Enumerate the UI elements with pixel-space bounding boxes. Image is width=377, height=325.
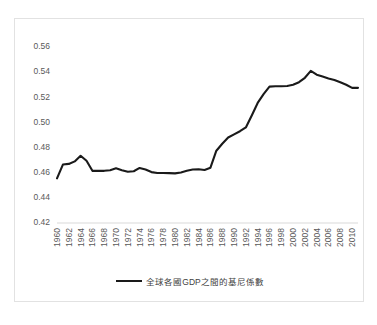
x-axis-tick-label: 2006 xyxy=(323,228,333,247)
x-axis-tick-label: 1968 xyxy=(99,228,109,247)
y-axis-tick-label: 0.50 xyxy=(33,117,50,127)
y-axis-tick-label: 0.42 xyxy=(33,217,50,227)
line-chart-svg: 0.420.440.460.480.500.520.540.5619601962… xyxy=(15,19,365,303)
x-axis-tick-label: 1970 xyxy=(111,228,121,247)
x-axis-tick-label: 1982 xyxy=(182,228,192,247)
y-axis-tick-label: 0.56 xyxy=(33,41,50,51)
y-axis-tick-label: 0.52 xyxy=(33,92,50,102)
y-axis-tick-label: 0.44 xyxy=(33,192,50,202)
data-series-line xyxy=(57,71,358,178)
x-axis-tick-label: 1972 xyxy=(123,228,133,247)
x-axis-tick-label: 1984 xyxy=(194,228,204,247)
x-axis-tick-label: 1992 xyxy=(241,228,251,247)
x-axis-tick-label: 1996 xyxy=(264,228,274,247)
plot-area: 0.420.440.460.480.500.520.540.5619601962… xyxy=(15,19,365,303)
y-axis-tick-label: 0.46 xyxy=(33,167,50,177)
x-axis-tick-label: 1986 xyxy=(205,228,215,247)
legend-line-swatch-icon xyxy=(116,280,142,282)
x-axis-tick-label: 1994 xyxy=(253,228,263,247)
chart-container: 0.420.440.460.480.500.520.540.5619601962… xyxy=(14,18,364,302)
x-axis-tick-label: 1966 xyxy=(87,228,97,247)
x-axis-tick-label: 1998 xyxy=(276,228,286,247)
x-axis-tick-label: 1964 xyxy=(76,228,86,247)
x-axis-tick-label: 2000 xyxy=(288,228,298,247)
x-axis-tick-label: 1960 xyxy=(52,228,62,247)
x-axis-tick-label: 1990 xyxy=(229,228,239,247)
legend-label: 全球各國GDP之間的基尼係數 xyxy=(146,275,263,287)
x-axis-tick-label: 1974 xyxy=(135,228,145,247)
x-axis-tick-label: 2010 xyxy=(347,228,357,247)
y-axis-tick-label: 0.54 xyxy=(33,66,50,76)
x-axis-tick-label: 1978 xyxy=(158,228,168,247)
y-axis-tick-label: 0.48 xyxy=(33,142,50,152)
x-axis-tick-label: 1988 xyxy=(217,228,227,247)
x-axis-tick-label: 1976 xyxy=(146,228,156,247)
x-axis-tick-label: 2008 xyxy=(335,228,345,247)
x-axis-tick-label: 1980 xyxy=(170,228,180,247)
chart-legend: 全球各國GDP之間的基尼係數 xyxy=(15,275,365,287)
x-axis-tick-label: 1962 xyxy=(64,228,74,247)
x-axis-tick-label: 2002 xyxy=(300,228,310,247)
x-axis-tick-label: 2004 xyxy=(312,228,322,247)
